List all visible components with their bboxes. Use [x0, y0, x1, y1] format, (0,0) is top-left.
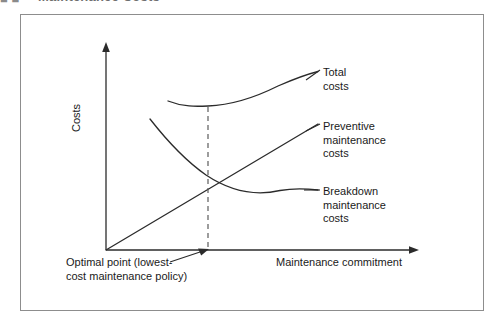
- total-costs-label-line2: costs: [323, 80, 349, 94]
- breakdown-costs-label-line3: costs: [323, 212, 386, 226]
- optimal-point-annotation-line1: Optimal point (lowest-: [66, 255, 187, 269]
- preventive-costs-line: [106, 124, 318, 250]
- total-costs-label-line1: Total: [323, 66, 349, 80]
- preventive-costs-label-line1: Preventive: [323, 120, 386, 134]
- x-axis: [106, 246, 419, 254]
- breakdown-costs-label-line1: Breakdown: [323, 185, 386, 199]
- optimal-point-annotation-line2: cost maintenance policy): [66, 269, 187, 283]
- breakdown-costs-label-line2: maintenance: [323, 199, 386, 213]
- preventive-costs-label-line2: maintenance: [323, 134, 386, 148]
- x-axis-label: Maintenance commitment: [276, 256, 402, 270]
- preventive-costs-label-line3: costs: [323, 147, 386, 161]
- y-axis-label: Costs: [70, 104, 82, 132]
- preventive-costs-leader: [306, 124, 320, 131]
- y-axis: [102, 42, 110, 250]
- breakdown-costs-curve: [150, 119, 318, 193]
- optimal-point-annotation: Optimal point (lowest- cost maintenance …: [66, 255, 187, 283]
- preventive-costs-label: Preventive maintenance costs: [323, 120, 386, 161]
- total-costs-label: Total costs: [323, 66, 349, 93]
- total-costs-curve: [168, 72, 318, 107]
- breakdown-costs-label: Breakdown maintenance costs: [323, 185, 386, 226]
